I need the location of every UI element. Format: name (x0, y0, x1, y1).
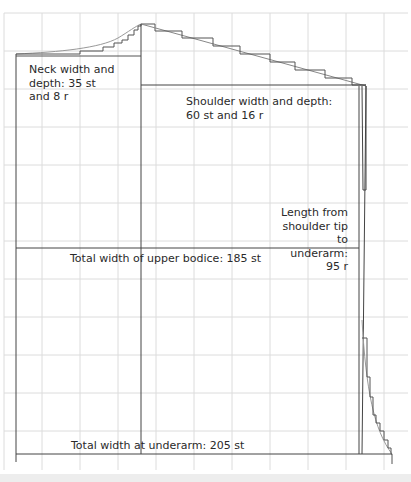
underarm-steps (362, 338, 392, 464)
bottom-band (0, 474, 411, 482)
underarm-label: Total width at underarm: 205 st (71, 439, 244, 453)
upper-bodice-label: Total width of upper bodice: 185 st (70, 252, 261, 266)
shoulder-slope (141, 24, 366, 86)
shoulder-label: Shoulder width and depth: 60 st and 16 r (186, 95, 332, 122)
neck-steps (16, 24, 155, 54)
neck-curve (16, 24, 141, 54)
neck-label: Neck width and depth: 35 st and 8 r (29, 63, 114, 104)
length-label: Length from shoulder tip to underarm: 95… (274, 206, 348, 274)
